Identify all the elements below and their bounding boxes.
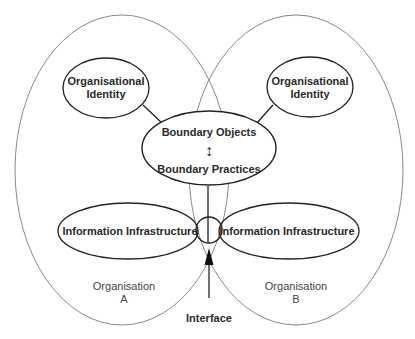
identity-node-b xyxy=(267,57,353,117)
identity-a-line1: Organisational xyxy=(67,75,144,87)
organisation-b-line1: Organisation xyxy=(265,280,327,292)
infrastructure-b-label: Information Infrastructure xyxy=(219,225,354,237)
interface-label: Interface xyxy=(186,312,232,324)
boundary-diagram: Organisational Identity Organisational I… xyxy=(0,0,415,339)
interface-circle xyxy=(196,217,222,243)
organisation-a-line2: A xyxy=(120,293,128,305)
infrastructure-a-label: Information Infrastructure xyxy=(62,225,197,237)
interface-arrow-head xyxy=(205,248,214,265)
organisation-b-line2: B xyxy=(292,293,299,305)
identity-b-line2: Identity xyxy=(290,88,330,100)
connector-identity-b xyxy=(256,105,273,124)
organisation-a-line1: Organisation xyxy=(93,280,155,292)
identity-a-line2: Identity xyxy=(86,88,126,100)
boundary-objects-label: Boundary Objects xyxy=(162,126,257,138)
bidirectional-arrow-icon: ↕ xyxy=(205,142,213,159)
connector-identity-a xyxy=(143,105,163,124)
boundary-practices-label: Boundary Practices xyxy=(157,163,260,175)
identity-b-line1: Organisational xyxy=(271,75,348,87)
